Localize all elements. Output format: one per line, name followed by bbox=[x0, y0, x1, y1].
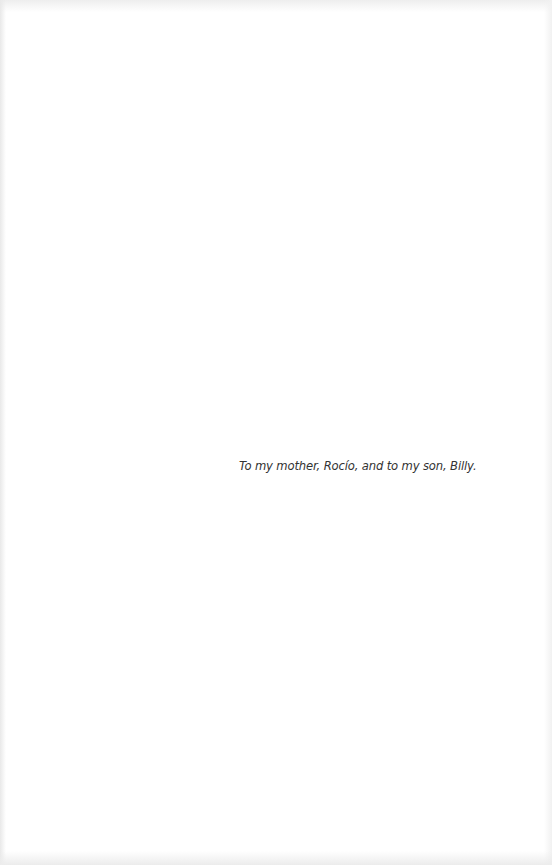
dedication-text: To my mother, Rocío, and to my son, Bill… bbox=[239, 457, 499, 475]
book-page: To my mother, Rocío, and to my son, Bill… bbox=[0, 0, 552, 865]
scan-edge-bottom bbox=[0, 851, 552, 865]
scan-edge-left bbox=[0, 0, 6, 865]
scan-edge-top bbox=[0, 0, 552, 12]
scan-edge-right bbox=[544, 0, 552, 865]
